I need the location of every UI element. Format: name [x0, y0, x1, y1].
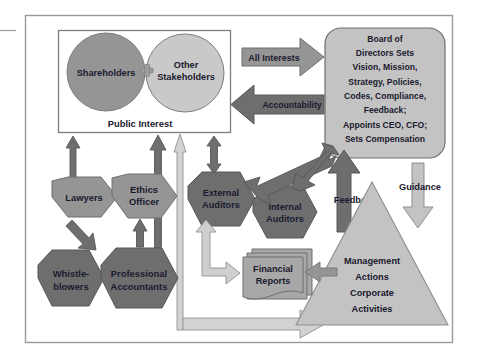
- lawyers-label: Lawyers: [65, 192, 103, 203]
- whistle-blowers-label-line2: blowers: [53, 281, 88, 292]
- guidance-label: Guidance: [399, 182, 441, 192]
- shareholders-label: Shareholders: [77, 68, 136, 78]
- management-line-4: Activities: [352, 304, 393, 314]
- guidance-arrow: [403, 163, 433, 228]
- whistle-blowers-label-line1: Whistle-: [53, 268, 89, 279]
- professional-accountants-to-ethics-officer-arrow: [133, 219, 147, 247]
- board-line-8: Sets Compensation: [345, 134, 425, 144]
- external-auditors-label-line1: External: [203, 188, 239, 198]
- financial-reports-to-external-auditors-elbow-arrow: [196, 220, 240, 284]
- diagram-canvas: Shareholders Other Stakeholders Public I…: [0, 0, 479, 361]
- accountability-label: Accountability: [262, 100, 321, 110]
- management-line-3: Corporate: [350, 288, 394, 298]
- hexagon-external-auditors: [188, 172, 255, 226]
- all-interests-label: All Interests: [248, 53, 300, 63]
- board-line-6: Feedback;: [364, 105, 407, 115]
- financial-reports-label-line1: Financial: [253, 264, 293, 274]
- management-line-2: Actions: [355, 272, 389, 282]
- management-line-1: Management: [344, 256, 400, 266]
- professional-accountants-label-line1: Professional: [111, 268, 167, 279]
- board-line-1: Board of: [367, 34, 402, 44]
- lawyers-to-public-interest-arrow: [66, 136, 80, 178]
- board-line-2: Directors Sets: [356, 48, 414, 58]
- internal-auditors-label-line2: Auditors: [266, 214, 304, 224]
- internal-auditors-label-line1: Internal: [268, 202, 301, 212]
- other-stakeholders-label-line1: Other: [174, 60, 199, 70]
- public-interest-external-auditors-double-arrow: [207, 136, 221, 174]
- public-interest-caption: Public Interest: [108, 118, 173, 129]
- other-stakeholders-label-line2: Stakeholders: [157, 72, 215, 82]
- management-to-public-interest-arrow: [174, 134, 186, 330]
- board-line-7: Appoints CEO, CFO;: [343, 120, 427, 130]
- financial-reports-label-line2: Reports: [256, 276, 291, 286]
- whistle-blowers-to-lawyers-arrow: [66, 220, 96, 250]
- board-line-5: Codes, Compliance,: [344, 91, 426, 101]
- ethics-officer-label-line1: Ethics: [130, 184, 158, 195]
- board-line-3: Vision, Mission,: [353, 62, 418, 72]
- professional-accountants-label-line2: Accountants: [111, 281, 168, 292]
- financial-reports-stack: [243, 249, 312, 299]
- ethics-officer-label-line2: Officer: [129, 196, 160, 207]
- external-auditors-label-line2: Auditors: [202, 200, 240, 210]
- board-line-4: Strategy, Policies,: [348, 77, 421, 87]
